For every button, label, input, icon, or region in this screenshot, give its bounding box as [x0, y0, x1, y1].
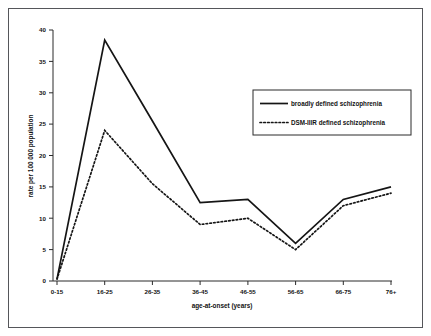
- y-tick-label: 30: [39, 89, 46, 96]
- y-axis-tick-labels: 0 5 10 15 20 25 30 35 40: [39, 26, 46, 284]
- y-tick-label: 5: [43, 246, 47, 253]
- y-tick-label: 35: [39, 58, 46, 65]
- line-chart: 0 5 10 15 20 25 30 35 40 0-15 16-25 26-3…: [0, 0, 431, 336]
- legend-label-broadly-defined: broadly defined schizophrenia: [291, 100, 382, 108]
- series-line-broadly-defined: [57, 40, 391, 279]
- x-tick-label: 76+: [386, 288, 397, 295]
- x-tick-label: 46-55: [240, 288, 256, 295]
- x-tick-label: 66-75: [335, 288, 351, 295]
- y-axis-ticks: [49, 30, 53, 281]
- x-axis-tick-labels: 0-15 16-25 26-35 36-45 46-55 56-65 66-75…: [51, 288, 397, 295]
- figure-container: 0 5 10 15 20 25 30 35 40 0-15 16-25 26-3…: [0, 0, 431, 336]
- legend-label-dsm-iiir-defined: DSM-IIIR defined schizophrenia: [291, 119, 386, 127]
- y-tick-label: 10: [39, 215, 46, 222]
- x-axis-title: age-at-onset (years): [192, 302, 253, 310]
- y-tick-label: 0: [43, 277, 47, 284]
- x-tick-label: 56-65: [288, 288, 304, 295]
- x-axis-ticks: [57, 281, 391, 285]
- y-tick-label: 20: [39, 152, 46, 159]
- legend-box: [253, 90, 411, 135]
- y-tick-label: 15: [39, 183, 46, 190]
- series-line-dsm-iiir-defined: [57, 130, 391, 279]
- x-tick-label: 0-15: [51, 288, 64, 295]
- x-tick-label: 36-45: [192, 288, 208, 295]
- legend: broadly defined schizophrenia DSM-IIIR d…: [253, 90, 411, 135]
- y-axis-title: rate per 100 000 population: [27, 115, 35, 198]
- y-tick-label: 40: [39, 26, 46, 33]
- x-tick-label: 16-25: [97, 288, 113, 295]
- x-tick-label: 26-35: [144, 288, 160, 295]
- y-tick-label: 25: [39, 120, 46, 127]
